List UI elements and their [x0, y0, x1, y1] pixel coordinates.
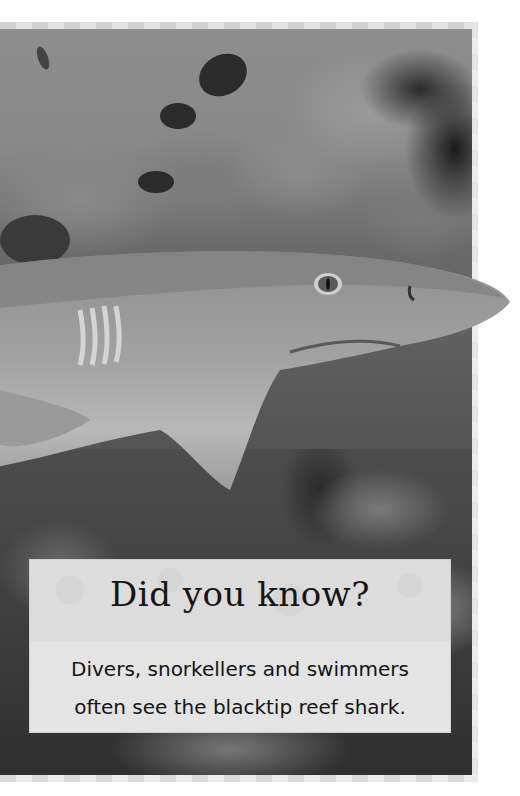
- fish-lower: [138, 171, 174, 193]
- fish-small: [34, 45, 52, 71]
- callout-title: Did you know?: [30, 574, 450, 614]
- callout-body: Divers, snorkellers and swimmers often s…: [30, 650, 450, 726]
- book-page: Did you know? Divers, snorkellers and sw…: [0, 0, 520, 796]
- fish-middle: [160, 103, 196, 129]
- did-you-know-callout: Did you know? Divers, snorkellers and sw…: [30, 560, 450, 732]
- fish-large: [191, 45, 254, 105]
- callout-body-line-1: Divers, snorkellers and swimmers: [30, 650, 450, 688]
- callout-body-line-2: often see the blacktip reef shark.: [30, 688, 450, 726]
- shark-illustration: [0, 240, 512, 510]
